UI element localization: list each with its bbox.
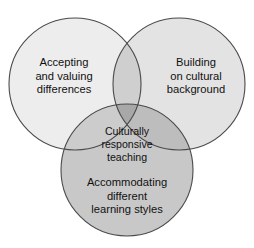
venn-diagram: Accepting and valuing differences Buildi… bbox=[0, 0, 254, 248]
venn-diagram-canvas bbox=[0, 0, 254, 248]
